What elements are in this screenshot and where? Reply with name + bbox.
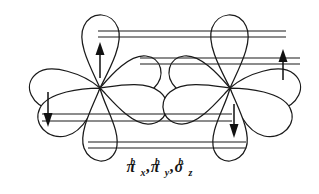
caption-superscript-pi-y: b [155,156,160,167]
figure-caption: πbx,πby,σbz [0,158,319,176]
caption-superscript-sigma-z: b [178,156,183,167]
caption-subscript-pi-y: y [165,167,170,178]
caption-term-pi-y: πby [151,158,170,176]
caption-subscript-sigma-z: z [189,167,193,178]
caption-term-sigma-z: σbz [175,158,193,176]
caption-superscript-pi-x: b [130,156,135,167]
orbital-diagram-figure: πbx,πby,σbz [0,0,319,194]
bond-pair-top [98,31,286,37]
caption-term-pi-x: πbx [126,158,145,176]
caption-subscript-pi-x: x [141,167,146,178]
